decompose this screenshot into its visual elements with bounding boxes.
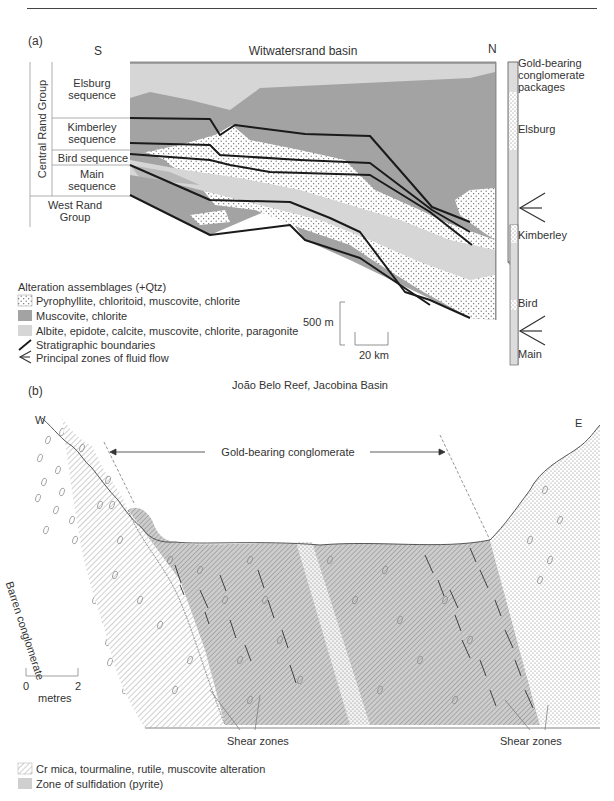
panel-b-label: (b): [28, 385, 43, 397]
scale-b-start: 0: [23, 680, 29, 692]
sequence-elsburg: Elsburg sequence: [56, 77, 128, 101]
scale-b-end: 2: [75, 680, 81, 692]
scale-horizontal-label: 20 km: [359, 349, 389, 361]
west-rand-group: West Rand Group: [30, 199, 120, 223]
sequence-kimberley: Kimberley sequence: [56, 121, 128, 145]
sequence-bird: Bird sequence: [54, 152, 132, 164]
direction-north: N: [488, 43, 497, 55]
column-kimberley: Kimberley: [518, 229, 567, 241]
legend-item-albite: Albite, epidote, calcite, muscovite, chl…: [36, 325, 298, 337]
shear-zones-right: Shear zones: [500, 735, 562, 747]
column-title: Gold-bearing conglomerate packages: [518, 57, 585, 93]
scale-b-unit: metres: [38, 692, 72, 704]
panel-a-label: (a): [28, 35, 43, 47]
legend-item-cr-mica: Cr mica, tourmaline, rutile, muscovite a…: [36, 763, 265, 775]
column-elsburg: Elsburg: [518, 123, 555, 135]
central-rand-group-label: Central Rand Group: [36, 79, 48, 179]
direction-south: S: [94, 45, 102, 57]
legend-item-sulfidation: Zone of sulfidation (pyrite): [36, 778, 163, 790]
scale-vertical-label: 500 m: [303, 316, 334, 328]
column-bird: Bird: [518, 297, 538, 309]
shear-zones-left: Shear zones: [227, 735, 289, 747]
legend-item-pyrophyllite: Pyrophyllite, chloritoid, muscovite, chl…: [36, 295, 240, 307]
legend-item-stratigraphic-boundaries: Stratigraphic boundaries: [36, 339, 155, 351]
panel-a-title: Witwatersrand basin: [228, 45, 378, 57]
sequence-main: Main sequence: [56, 168, 128, 192]
panel-b-title: João Belo Reef, Jacobina Basin: [200, 379, 420, 391]
direction-east: E: [575, 417, 582, 429]
direction-west: W: [35, 414, 45, 426]
legend-a-title: Alteration assemblages (+Qtz): [18, 281, 166, 293]
legend-swatch-stipple: [18, 295, 32, 306]
column-main: Main: [518, 348, 542, 360]
legend-item-muscovite: Muscovite, chlorite: [36, 310, 127, 322]
gold-bearing-annotation: Gold-bearing conglomerate: [208, 446, 368, 458]
legend-item-fluid-flow: Principal zones of fluid flow: [36, 352, 169, 364]
